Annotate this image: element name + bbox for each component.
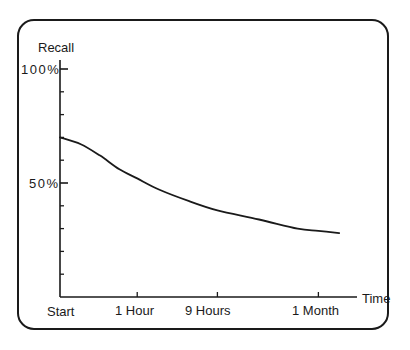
- x-tick-label-1-month: 1 Month: [292, 304, 339, 317]
- x-axis-title: Time: [362, 292, 390, 305]
- y-axis-title: Recall: [38, 41, 74, 54]
- x-tick-label-1-hour: 1 Hour: [115, 304, 154, 317]
- y-tick-label-50: 50%: [29, 177, 60, 190]
- x-tick-label-9-hours: 9 Hours: [185, 304, 231, 317]
- chart-stage: Recall 100% 50% Start 1 Hour 9 Hours 1 M…: [0, 0, 410, 350]
- y-tick-label-100: 100%: [21, 63, 60, 76]
- y-axis-ticks: [60, 69, 68, 274]
- recall-curve: [60, 137, 339, 233]
- x-tick-label-start: Start: [47, 305, 74, 318]
